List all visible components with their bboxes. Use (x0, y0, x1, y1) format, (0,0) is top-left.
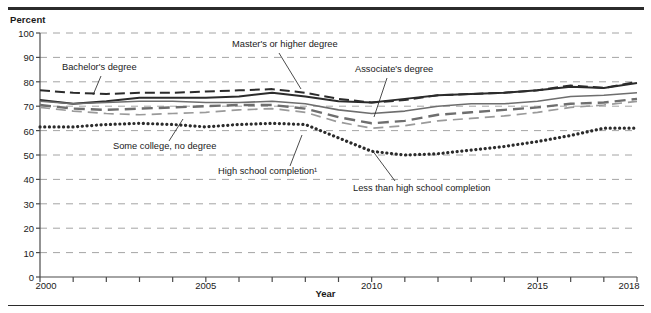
y-tick-label-50: 50 (6, 150, 34, 161)
chart-root: Percent 0102030405060708090100 200020052… (0, 0, 651, 313)
y-tick-label-70: 70 (6, 101, 34, 112)
y-tick-label-0: 0 (6, 272, 34, 283)
y-tick-label-20: 20 (6, 223, 34, 234)
y-tick-label-90: 90 (6, 52, 34, 63)
bottom-border-rule (8, 305, 644, 306)
annotation-some-college: Some college, no degree (113, 141, 216, 151)
annotation-bachelors: Bachelor's degree (62, 62, 137, 72)
y-tick-label-100: 100 (6, 28, 34, 39)
annotation-high-school: High school completion¹ (218, 166, 317, 176)
y-tick-label-80: 80 (6, 76, 34, 87)
annotation-associates: Associate's degree (355, 64, 433, 74)
annotation-masters: Master's or higher degree (232, 39, 338, 49)
y-tick-label-10: 10 (6, 247, 34, 258)
x-axis-title: Year (0, 288, 651, 299)
y-tick-label-40: 40 (6, 174, 34, 185)
y-tick-label-30: 30 (6, 198, 34, 209)
series-line-some-college-no-degree (40, 99, 637, 123)
y-axis-unit-label: Percent (10, 14, 46, 25)
y-tick-label-60: 60 (6, 125, 34, 136)
annotation-less-than-hs: Less than high school completion (353, 183, 490, 193)
series-line-associate-s-degree (40, 93, 637, 114)
top-border-rule (8, 7, 644, 10)
